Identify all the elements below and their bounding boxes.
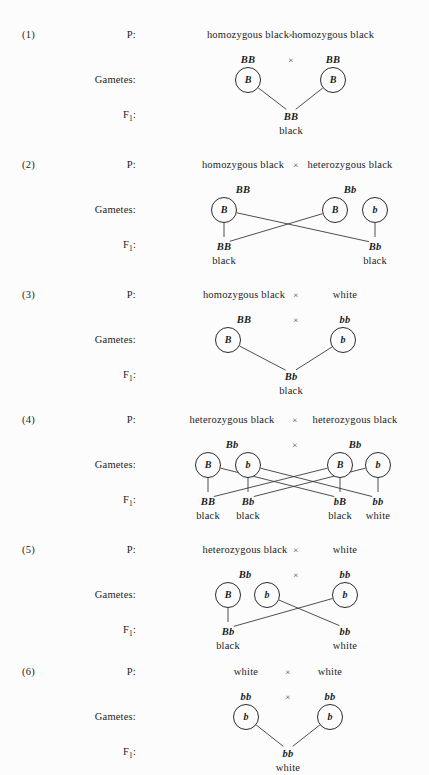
parent-phenotype-left: heterozygous black (190, 414, 275, 425)
gamete-circle[interactable]: b (330, 327, 356, 353)
row-label-parents: P: (0, 29, 136, 40)
row-label-f1: F1: (0, 746, 136, 760)
gamete-allele: b (246, 460, 251, 470)
offspring-phenotype: black (328, 510, 352, 521)
gamete-allele: b (376, 460, 381, 470)
parent-phenotype-right: white (318, 666, 342, 677)
cross-group-6: (6)P:Gametes:F1:white×whitebb×bbbbbbwhit… (0, 655, 429, 775)
row-label-gametes: Gametes: (0, 334, 136, 345)
genotype-cross-symbol: × (293, 315, 298, 325)
parent-cross-symbol: × (292, 415, 297, 425)
parent-phenotype-left: homozygous black (202, 159, 284, 170)
parent-genotype-right: BB (326, 54, 340, 65)
gamete-circle[interactable]: B (235, 67, 261, 93)
parent-cross-symbol: × (285, 667, 290, 677)
gamete-allele: b (328, 712, 333, 722)
gamete-allele: B (221, 205, 228, 215)
parent-cross-symbol: × (293, 290, 298, 300)
offspring-phenotype: white (276, 762, 300, 773)
row-label-f1: F1: (0, 239, 136, 253)
offspring-phenotype: white (333, 640, 357, 651)
gamete-allele: b (373, 205, 378, 215)
offspring-genotype: Bb (222, 626, 235, 637)
genotype-cross-symbol: × (288, 55, 293, 65)
row-label-gametes: Gametes: (0, 711, 136, 722)
parent-genotype-left: bb (241, 691, 252, 702)
parent-phenotype-left: heterozygous black (203, 544, 288, 555)
row-label-gametes: Gametes: (0, 74, 136, 85)
offspring-phenotype: black (196, 510, 220, 521)
row-label-parents: P: (0, 159, 136, 170)
gamete-circle[interactable]: b (233, 704, 259, 730)
offspring-genotype: bb (373, 496, 384, 507)
parent-cross-symbol: × (293, 545, 298, 555)
offspring-genotype: bb (340, 626, 351, 637)
gamete-circle[interactable]: B (215, 582, 241, 608)
offspring-phenotype: black (279, 125, 303, 136)
parent-genotype-right: bb (340, 314, 351, 325)
offspring-genotype: bb (283, 748, 294, 759)
gamete-circle[interactable]: b (235, 452, 261, 478)
offspring-genotype: BB (201, 496, 215, 507)
offspring-genotype: Bb (242, 496, 255, 507)
gamete-circle[interactable]: b (317, 704, 343, 730)
gamete-circle[interactable]: b (254, 582, 280, 608)
row-label-gametes: Gametes: (0, 589, 136, 600)
row-label-gametes: Gametes: (0, 459, 136, 470)
cross-group-2: (2)P:Gametes:F1:homozygous black×heteroz… (0, 148, 429, 268)
gamete-allele: B (245, 75, 252, 85)
parent-cross-symbol: × (293, 160, 298, 170)
parent-phenotype-left: homozygous black (207, 29, 289, 40)
row-label-parents: P: (0, 414, 136, 425)
offspring-phenotype: black (236, 510, 260, 521)
gamete-allele: b (341, 335, 346, 345)
gamete-circle[interactable]: B (320, 67, 346, 93)
parent-genotype-right: bb (325, 691, 336, 702)
parent-phenotype-left: white (234, 666, 258, 677)
gamete-allele: B (225, 335, 232, 345)
gamete-circle[interactable]: B (195, 452, 221, 478)
gamete-allele: b (265, 590, 270, 600)
row-label-parents: P: (0, 666, 136, 677)
gamete-allele: b (244, 712, 249, 722)
parent-phenotype-right: white (333, 544, 357, 555)
row-label-f1: F1: (0, 369, 136, 383)
offspring-phenotype: white (366, 510, 390, 521)
gamete-circle[interactable]: b (365, 452, 391, 478)
gamete-allele: B (337, 460, 344, 470)
gamete-circle[interactable]: b (332, 582, 358, 608)
parent-phenotype-left: homozygous black (203, 289, 285, 300)
row-label-parents: P: (0, 289, 136, 300)
offspring-phenotype: black (363, 255, 387, 266)
row-label-parents: P: (0, 544, 136, 555)
genotype-cross-symbol: × (285, 692, 290, 702)
row-label-f1: F1: (0, 624, 136, 638)
cross-group-4: (4)P:Gametes:F1:heterozygous black×heter… (0, 403, 429, 523)
gamete-circle[interactable]: b (362, 197, 388, 223)
gamete-circle[interactable]: B (327, 452, 353, 478)
gamete-allele: B (332, 205, 339, 215)
gamete-allele: B (205, 460, 212, 470)
offspring-phenotype: black (216, 640, 240, 651)
parent-genotype-left: BB (237, 314, 251, 325)
cross-group-1: (1)P:Gametes:F1:homozygous black×homozyg… (0, 18, 429, 138)
genotype-cross-symbol: × (293, 570, 298, 580)
gamete-allele: B (330, 75, 337, 85)
offspring-genotype: bB (334, 496, 347, 507)
parent-genotype-left: BB (241, 54, 255, 65)
gamete-allele: b (343, 590, 348, 600)
offspring-phenotype: black (279, 385, 303, 396)
gamete-circle[interactable]: B (211, 197, 237, 223)
row-label-f1: F1: (0, 494, 136, 508)
parent-genotype-left: BB (236, 184, 250, 195)
genotype-cross-symbol: × (292, 440, 297, 450)
parent-genotype-right: bb (340, 569, 351, 580)
cross-group-5: (5)P:Gametes:F1:heterozygous black×white… (0, 533, 429, 653)
gamete-circle[interactable]: B (215, 327, 241, 353)
parent-genotype-left: Bb (226, 439, 239, 450)
gamete-allele: B (225, 590, 232, 600)
gamete-circle[interactable]: B (322, 197, 348, 223)
offspring-genotype: Bb (369, 241, 382, 252)
offspring-genotype: BB (284, 111, 298, 122)
parent-genotype-left: Bb (239, 569, 252, 580)
